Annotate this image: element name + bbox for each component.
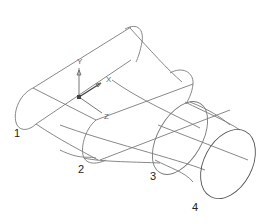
section-1-profile	[15, 88, 36, 129]
loft-ruling-14	[158, 125, 248, 160]
loft-ruling-12	[155, 160, 193, 182]
ucs-x-axis	[79, 83, 101, 97]
ucs-origin-marker	[77, 95, 81, 99]
loft-wireframe-diagram: X Y Z 1 2 3 4	[0, 0, 266, 223]
section-label-4: 4	[192, 201, 198, 213]
loft-ruling-5	[60, 150, 96, 158]
section-4-profile	[189, 120, 266, 208]
ucs-icon: X Y Z	[77, 57, 112, 121]
loft-ruling-4	[130, 28, 182, 82]
ucs-x-label: X	[106, 75, 112, 84]
section-2-top-arc	[170, 70, 193, 104]
section-label-1: 1	[14, 127, 20, 139]
section-label-2: 2	[78, 163, 84, 175]
loft-ruling-3	[36, 60, 131, 124]
section-label-3: 3	[150, 170, 156, 182]
loft-ruling-6	[112, 80, 200, 128]
ucs-z-label: Z	[104, 112, 109, 121]
loft-ruling-7	[96, 84, 193, 120]
loft-ruling-11	[185, 102, 240, 130]
section-2-profile	[83, 120, 107, 163]
loft-ruling-9	[100, 110, 230, 160]
ucs-z-axis	[79, 97, 102, 113]
ucs-y-label: Y	[77, 57, 83, 66]
